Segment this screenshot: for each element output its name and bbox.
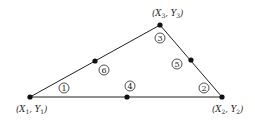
svg-text:6: 6 — [101, 66, 106, 75]
svg-text:4: 4 — [127, 82, 132, 91]
svg-text:3: 3 — [157, 34, 162, 43]
node-4-dot — [124, 94, 129, 99]
svg-text:2: 2 — [201, 84, 206, 93]
svg-text:5: 5 — [174, 60, 179, 69]
node-2-dot — [219, 94, 224, 99]
vertex-3-label: (X3, Y3) — [152, 8, 183, 19]
vertex-2-label: (X2, Y2) — [212, 104, 243, 115]
vertex-1-label: (X1, Y1) — [16, 104, 47, 115]
svg-text:1: 1 — [61, 84, 66, 93]
node-6-dot — [92, 58, 97, 63]
triangle-element-diagram: 1 2 3 4 5 6 (X1, Y1) (X2, Y2) (X3, Y3) — [0, 0, 255, 120]
node-5-dot — [188, 57, 193, 62]
node-3-dot — [157, 22, 162, 27]
circled-number-2: 2 — [199, 83, 209, 93]
circled-number-6: 6 — [99, 65, 109, 75]
node-1-dot — [27, 94, 32, 99]
circled-number-3: 3 — [155, 33, 165, 43]
circled-number-1: 1 — [59, 83, 69, 93]
circled-number-4: 4 — [125, 81, 135, 91]
circled-number-5: 5 — [172, 59, 182, 69]
